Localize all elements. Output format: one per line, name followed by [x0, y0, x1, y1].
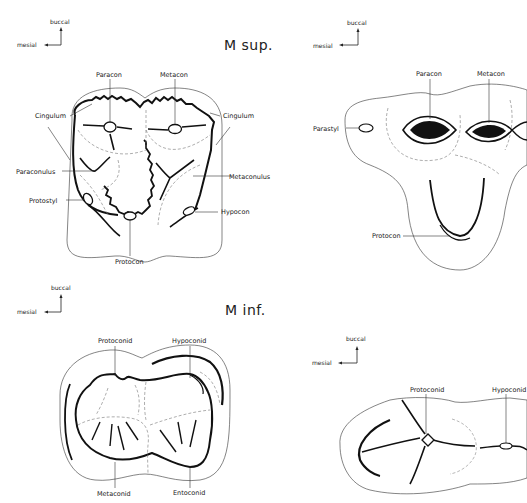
buccal-label: buccal	[50, 18, 70, 25]
orientation-indicator: buccal mesial	[17, 284, 71, 315]
label-entoconid: Entoconid	[173, 489, 205, 497]
label-metacon: Metacon	[477, 70, 505, 78]
label-protocon: Protocon	[372, 232, 401, 240]
mesial-label: mesial	[313, 42, 333, 49]
orientation-indicator: buccal mesial	[17, 18, 70, 48]
label-metacon: Metacon	[160, 71, 188, 79]
arrow-up-icon	[356, 346, 359, 350]
mesial-label: mesial	[17, 308, 37, 315]
buccal-label: buccal	[346, 335, 366, 342]
molar-cusp-diagram: buccal mesial M sup.	[0, 0, 527, 503]
arrow-up-icon	[357, 28, 360, 32]
label-paraconulus: Paraconulus	[16, 168, 56, 176]
arrow-up-icon	[60, 294, 63, 298]
label-protostyl: Protostyl	[29, 197, 58, 205]
label-hypocon: Hypocon	[221, 208, 250, 216]
upper-molar-left-view: buccal mesial M sup.	[16, 18, 273, 266]
label-protocon: Protocon	[115, 258, 144, 266]
arrow-left-icon	[338, 362, 342, 365]
orientation-indicator: buccal mesial	[313, 19, 367, 49]
upper-molar-title: M sup.	[224, 37, 273, 53]
upper-molar-right-view: buccal mesial Paracon Metacon Parastyl	[313, 19, 527, 270]
label-cingulum-right: Cingulum	[223, 112, 254, 120]
arrow-up-icon	[60, 27, 63, 31]
label-hypoconid: Hypoconid	[492, 386, 526, 394]
label-cingulum-left: Cingulum	[35, 112, 66, 120]
lower-molar-left-view: buccal mesial M inf.	[17, 284, 266, 498]
buccal-label: buccal	[347, 19, 367, 26]
label-metaconulus: Metaconulus	[229, 173, 271, 181]
label-metaconid: Metaconid	[97, 490, 131, 498]
buccal-label: buccal	[51, 284, 71, 291]
label-paracon: Paracon	[416, 70, 442, 78]
label-paracon: Paracon	[96, 71, 122, 79]
lower-molar-title: M inf.	[225, 302, 266, 318]
orientation-indicator: buccal mesial	[312, 335, 366, 366]
arrow-left-icon	[44, 44, 48, 47]
mesial-label: mesial	[17, 41, 37, 48]
lower-molar-right-view: buccal mesial Protoconid Hypoconid	[312, 335, 527, 494]
arrow-left-icon	[44, 311, 48, 314]
arrow-left-icon	[339, 44, 343, 47]
label-protoconid: Protoconid	[410, 386, 444, 394]
label-hypoconid: Hypoconid	[172, 337, 206, 345]
label-parastyl: Parastyl	[313, 125, 339, 133]
label-protoconid: Protoconid	[98, 337, 132, 345]
mesial-label: mesial	[312, 359, 332, 366]
